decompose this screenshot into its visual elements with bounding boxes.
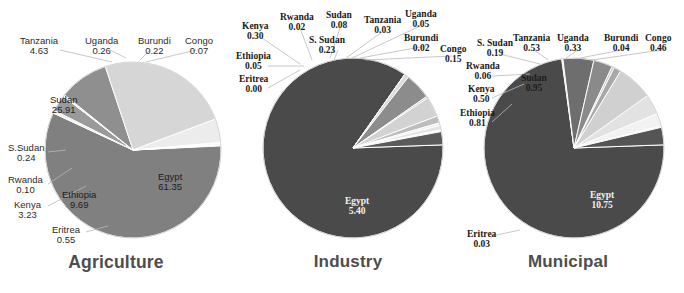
slice-label-name: S. Sudan	[477, 38, 513, 48]
slice-label-name: Uganda	[557, 33, 589, 43]
figure-canvas: Agriculture Tanzania4.63Uganda0.26Burund…	[0, 0, 684, 293]
pie-panel-municipal: Municipal S. Sudan0.19Tanzania0.53Uganda…	[0, 0, 684, 293]
slice-label-name: Kenya	[468, 84, 494, 94]
slice-label-ethiopia: Ethiopia0.81	[460, 108, 495, 129]
slice-label-name: Burundi	[604, 33, 638, 43]
slice-label-kenya: Kenya0.50	[468, 84, 494, 105]
slice-label-value: 0.95	[521, 83, 547, 93]
slice-label-name: Congo	[645, 33, 671, 43]
slice-label-name: Egypt	[590, 190, 614, 200]
slice-label-eritrea: Eritrea0.03	[467, 229, 496, 250]
slice-label-sudan: Sudan0.95	[521, 73, 547, 94]
slice-label-value: 10.75	[590, 200, 614, 210]
slice-label-value: 0.04	[604, 43, 638, 53]
slice-label-name: Eritrea	[467, 229, 496, 239]
slice-label-value: 0.53	[513, 43, 550, 53]
slice-label-egypt: Egypt10.75	[590, 190, 614, 211]
slice-label-name: Rwanda	[466, 61, 500, 71]
slice-label-congo: Congo0.46	[645, 33, 671, 54]
slice-label-value: 0.19	[477, 48, 513, 58]
slice-label-value: 0.50	[468, 94, 494, 104]
slice-label-rwanda: Rwanda0.06	[466, 61, 500, 82]
slice-label-name: Sudan	[521, 73, 547, 83]
slice-label-value: 0.03	[467, 239, 496, 249]
slice-label-value: 0.33	[557, 43, 589, 53]
slice-label-burundi: Burundi0.04	[604, 33, 638, 54]
slice-label-uganda: Uganda0.33	[557, 33, 589, 54]
slice-label-value: 0.81	[460, 118, 495, 128]
slice-label-name: Ethiopia	[460, 108, 495, 118]
slice-label-ssudan: S. Sudan0.19	[477, 38, 513, 59]
slice-label-value: 0.46	[645, 43, 671, 53]
slice-label-name: Tanzania	[513, 33, 550, 43]
chart-title-municipal: Municipal	[452, 252, 684, 272]
slice-label-value: 0.06	[466, 71, 500, 81]
slice-label-tanzania: Tanzania0.53	[513, 33, 550, 54]
